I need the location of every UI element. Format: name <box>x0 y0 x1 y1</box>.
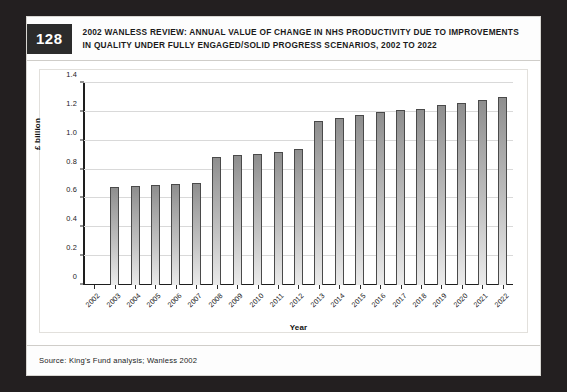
plot-inner-area: 00.20.40.60.81.01.21.4 <box>84 83 513 285</box>
x-tick-label: 2021 <box>472 291 490 309</box>
figure-header: 128 2002 WANLESS REVIEW: ANNUAL VALUE OF… <box>27 17 540 61</box>
x-tick-label: 2004 <box>125 291 143 309</box>
y-tick-label: 0 <box>73 272 77 281</box>
bar <box>437 105 446 285</box>
figure-card: 128 2002 WANLESS REVIEW: ANNUAL VALUE OF… <box>26 16 541 376</box>
x-tick-label: 2016 <box>370 291 388 309</box>
x-tick-label: 2015 <box>349 291 367 309</box>
x-tick-label: 2009 <box>227 291 245 309</box>
x-tick-label: 2022 <box>492 291 510 309</box>
x-tick-label: 2020 <box>451 291 469 309</box>
chart-plot-region: £ billion 00.20.40.60.81.01.21.4 2002200… <box>27 61 540 343</box>
bar <box>151 185 160 285</box>
x-tick-label: 2014 <box>329 291 347 309</box>
x-tick-label: 2010 <box>247 291 265 309</box>
bar-slot <box>390 83 410 285</box>
bar <box>233 155 242 285</box>
x-tick-label: 2013 <box>308 291 326 309</box>
x-tick-label: 2003 <box>104 291 122 309</box>
bar <box>294 149 303 285</box>
x-axis-title: Year <box>84 323 513 332</box>
y-tick-label: 1.2 <box>66 98 77 107</box>
y-tick-label: 1.4 <box>66 70 77 79</box>
bar-slot <box>492 83 512 285</box>
figure-number-badge: 128 <box>27 24 72 54</box>
bar-slot <box>145 83 165 285</box>
bar-slot <box>84 83 104 285</box>
x-tick-label: 2005 <box>145 291 163 309</box>
bar-slot <box>472 83 492 285</box>
bar <box>314 121 323 285</box>
y-tick-label: 0.4 <box>66 214 77 223</box>
x-tick-label: 2019 <box>431 291 449 309</box>
x-tick-label: 2007 <box>186 291 204 309</box>
bar-slot <box>227 83 247 285</box>
bar <box>396 110 405 285</box>
bar <box>110 187 119 285</box>
bar-slot <box>207 83 227 285</box>
x-tick-label: 2008 <box>206 291 224 309</box>
bar-slot <box>370 83 390 285</box>
bar-slot <box>452 83 472 285</box>
bar <box>274 152 283 285</box>
x-tick-label: 2006 <box>165 291 183 309</box>
bar-slot <box>247 83 267 285</box>
bar <box>131 186 140 285</box>
bar <box>376 112 385 285</box>
bar-slot <box>329 83 349 285</box>
bar-slot <box>125 83 145 285</box>
bar-slot <box>411 83 431 285</box>
bar-slot <box>166 83 186 285</box>
x-tick-label: 2012 <box>288 291 306 309</box>
bar-slot <box>268 83 288 285</box>
bars-layer <box>84 83 513 285</box>
x-tick-label: 2011 <box>268 291 286 309</box>
figure-title-line-1: 2002 WANLESS REVIEW: ANNUAL VALUE OF CHA… <box>83 26 530 39</box>
bar <box>171 184 180 285</box>
bar <box>192 183 201 285</box>
bar-slot <box>431 83 451 285</box>
y-tick-label: 1.0 <box>66 127 77 136</box>
bar-slot <box>104 83 124 285</box>
bar <box>457 103 466 285</box>
bar-slot <box>349 83 369 285</box>
bar <box>416 109 425 285</box>
y-tick-label: 0.2 <box>66 243 77 252</box>
y-tick-label: 0.6 <box>66 185 77 194</box>
bar <box>478 100 487 285</box>
bar <box>253 154 262 285</box>
bar <box>212 157 221 285</box>
bar <box>335 118 344 285</box>
y-axis-title: £ billion <box>33 89 42 179</box>
figure-footer: Source: King's Fund analysis; Wanless 20… <box>27 345 540 375</box>
y-tick-label: 0.8 <box>66 156 77 165</box>
bar <box>355 115 364 285</box>
x-tick-label: 2002 <box>84 291 102 309</box>
bar-slot <box>186 83 206 285</box>
figure-title-line-2: IN QUALITY UNDER FULLY ENGAGED/SOLID PRO… <box>83 39 530 52</box>
x-tick-label: 2018 <box>410 291 428 309</box>
source-note: Source: King's Fund analysis; Wanless 20… <box>39 356 197 365</box>
figure-title: 2002 WANLESS REVIEW: ANNUAL VALUE OF CHA… <box>72 24 530 52</box>
bar-slot <box>309 83 329 285</box>
x-tick-label: 2017 <box>390 291 408 309</box>
bar-slot <box>288 83 308 285</box>
bar <box>498 97 507 285</box>
